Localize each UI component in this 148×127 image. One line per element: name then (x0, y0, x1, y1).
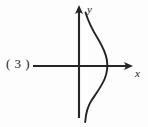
coordinate-plot: x y (0, 0, 148, 127)
figure-container: ( 3 ) x y (0, 0, 148, 127)
function-curve (85, 13, 107, 123)
y-axis-label: y (86, 3, 92, 15)
x-axis-label: x (134, 67, 140, 79)
